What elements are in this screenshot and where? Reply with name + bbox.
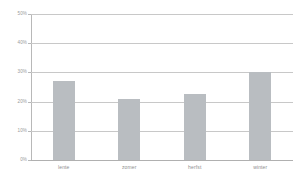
y-tick-label: 20% (18, 99, 28, 104)
bar[interactable] (118, 99, 140, 160)
y-tick-mark (28, 131, 31, 132)
x-tick-label: zomer (122, 165, 137, 170)
bar[interactable] (53, 81, 75, 160)
bar-slot (97, 14, 163, 160)
y-tick-mark (28, 43, 31, 44)
y-tick-mark (28, 14, 31, 15)
y-tick-mark (28, 72, 31, 73)
bar-slot (162, 14, 228, 160)
x-tick-label: winter (253, 165, 267, 170)
y-tick-mark (28, 102, 31, 103)
y-axis-labels: 0%10%20%30%40%50% (0, 14, 27, 160)
y-tick-label: 10% (18, 129, 28, 134)
bar-chart: 0%10%20%30%40%50% lentezomerherfstwinter (0, 0, 302, 186)
bar-slot (31, 14, 97, 160)
x-tick-label: lente (58, 165, 70, 170)
x-tick-label: herfst (188, 165, 201, 170)
bar[interactable] (249, 72, 271, 160)
y-tick-label: 40% (18, 41, 28, 46)
y-tick-label: 0% (20, 158, 27, 163)
y-tick-label: 30% (18, 70, 28, 75)
bar[interactable] (184, 94, 206, 160)
x-axis-labels: lentezomerherfstwinter (31, 165, 293, 177)
y-tick-label: 50% (18, 12, 28, 17)
y-tick-mark (28, 160, 31, 161)
bar-slot (228, 14, 294, 160)
plot-area (31, 14, 293, 160)
gridline (31, 160, 293, 161)
